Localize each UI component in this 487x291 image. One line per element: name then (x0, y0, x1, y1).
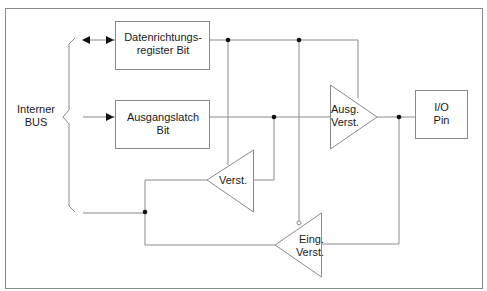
inverted-enable-icon (297, 221, 301, 225)
bus-label: Interner BUS (8, 103, 64, 129)
junction-dot (397, 115, 402, 120)
output-latch-label-line1: Ausgangslatch (115, 111, 211, 124)
output-latch-label-line2: Bit (115, 124, 211, 137)
read-amplifier-label-line1: Verst. (219, 174, 255, 187)
output-amplifier-label: Ausg. Verst. (331, 103, 369, 129)
direction-register-label: Datenrichtungs- register Bit (115, 31, 211, 57)
junction-dot (297, 38, 302, 43)
junction-dot (143, 210, 148, 215)
io-port-block-diagram (0, 0, 487, 291)
io-pin-label-line1: I/O (415, 101, 468, 114)
output-amplifier-label-line2: Verst. (331, 116, 369, 129)
junction-dot (226, 38, 231, 43)
bus-label-line1: Interner (8, 103, 64, 116)
output-amplifier-label-line1: Ausg. (331, 103, 369, 116)
direction-register-label-line2: register Bit (115, 44, 211, 57)
direction-register-label-line1: Datenrichtungs- (115, 31, 211, 44)
output-latch-label: Ausgangslatch Bit (115, 111, 211, 137)
read-amplifier-label: Verst. (219, 174, 255, 187)
io-pin-label-line2: Pin (415, 114, 468, 127)
input-amplifier-label-line1: Eing. (290, 233, 324, 246)
io-pin-label: I/O Pin (415, 101, 468, 127)
bus-label-line2: BUS (8, 116, 64, 129)
input-amplifier-label-line2: Verst. (290, 246, 324, 259)
diagram-frame (6, 9, 483, 289)
junction-dot (272, 115, 277, 120)
input-amplifier-label: Eing. Verst. (290, 233, 324, 259)
